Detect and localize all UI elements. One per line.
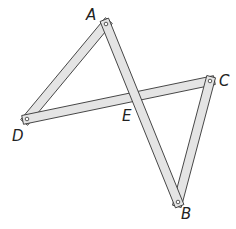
pivot-a: [104, 22, 108, 26]
bar-cb: [173, 76, 216, 208]
linkage-diagram: A C D E B: [0, 0, 236, 229]
label-d: D: [12, 127, 24, 145]
pivot-b: [176, 200, 180, 204]
label-c: C: [219, 72, 230, 90]
label-a: A: [85, 6, 96, 24]
label-b: B: [181, 205, 191, 223]
pivot-d: [25, 117, 29, 121]
pivot-c: [208, 79, 212, 83]
bars-group: [21, 18, 216, 208]
label-e: E: [122, 107, 132, 125]
bar-ab: [100, 18, 184, 208]
